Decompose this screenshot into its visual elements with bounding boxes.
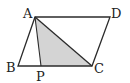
parallelogram-diagram: A D B P C [0,0,130,83]
label-p: P [36,69,45,83]
label-d: D [111,6,121,21]
label-a: A [22,6,33,21]
label-b: B [6,60,16,75]
label-c: C [94,61,104,76]
